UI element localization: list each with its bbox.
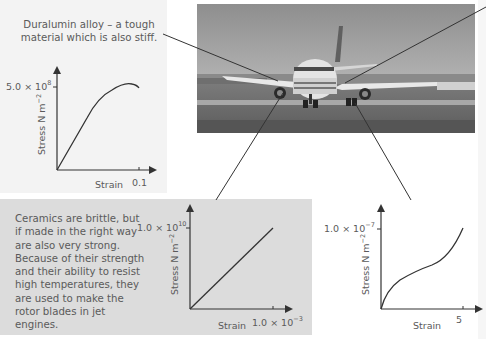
x-tick-label: 0.1 xyxy=(132,177,147,188)
y-tick-label: 5.0 × 108 xyxy=(6,79,51,92)
leader-lines xyxy=(163,7,486,200)
duralumin-graph: 5.0 × 108 0.1 Strain Stress N m−2 xyxy=(6,68,155,190)
leader-line-rubber xyxy=(355,103,411,200)
x-tick-label: 5 xyxy=(456,314,462,325)
y-axis-label: Stress N m−2 xyxy=(168,234,180,295)
leader-line-duralumin xyxy=(163,34,278,81)
x-axis-label: Strain xyxy=(218,320,246,331)
duralumin-curve xyxy=(57,84,139,170)
x-tick-label: 1.0 × 10−3 xyxy=(252,315,303,328)
y-tick-label: 1.0 × 1010 xyxy=(137,220,186,233)
y-tick-label: 1.0 × 10−7 xyxy=(324,221,375,234)
y-axis-label: Stress N m−2 xyxy=(359,234,371,295)
ceramic-line xyxy=(190,228,273,309)
leader-line-ceramic xyxy=(216,93,283,200)
diagram-overlay: 5.0 × 108 0.1 Strain Stress N m−2 1.0 × … xyxy=(0,0,486,339)
rubber-curve xyxy=(381,228,463,309)
x-axis-label: Strain xyxy=(413,320,441,331)
rubber-graph: 1.0 × 10−7 5 Strain Stress N m−2 xyxy=(324,206,481,331)
ceramic-graph: 1.0 × 1010 1.0 × 10−3 Strain Stress N m−… xyxy=(137,206,303,331)
x-axis-label: Strain xyxy=(95,179,123,190)
y-axis-label: Stress N m−2 xyxy=(35,94,47,155)
leader-line-top-right xyxy=(345,7,486,83)
